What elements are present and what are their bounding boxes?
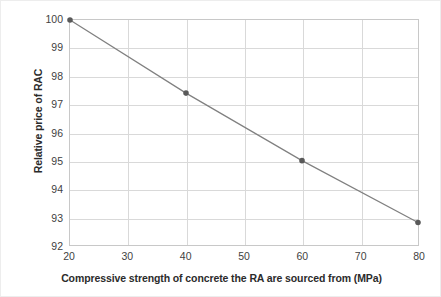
x-axis-title: Compressive strength of concrete the RA … <box>1 272 441 284</box>
y-axis-tick-label: 92 <box>3 241 63 252</box>
data-point-marker: 20, 100 <box>67 17 73 23</box>
data-point-marker: 80, 92.8 <box>415 220 421 226</box>
plot-area: 20, 10040, 97.460, 9580, 92.8 <box>69 19 419 246</box>
y-axis-tick-label: 99 <box>3 42 63 53</box>
x-axis-tick-label: 60 <box>282 251 322 262</box>
data-series-line: 20, 10040, 97.460, 9580, 92.8 <box>70 20 418 245</box>
y-axis-tick-label: 93 <box>3 213 63 224</box>
y-axis-tick-label: 100 <box>3 14 63 25</box>
chart-screenshot: Relative price of RAC 20, 10040, 97.460,… <box>0 0 441 297</box>
x-axis-tick-label: 50 <box>224 251 264 262</box>
y-axis-tick-label: 97 <box>3 99 63 110</box>
x-axis-tick-label: 20 <box>49 251 89 262</box>
y-axis-tick-label: 98 <box>3 71 63 82</box>
y-axis-tick-label: 96 <box>3 128 63 139</box>
x-axis-tick-label: 80 <box>399 251 439 262</box>
data-point-marker: 40, 97.4 <box>183 90 189 96</box>
x-axis-tick-label: 40 <box>166 251 206 262</box>
x-axis-tick-label: 30 <box>107 251 147 262</box>
y-axis-tick-label: 94 <box>3 184 63 195</box>
data-point-marker: 60, 95 <box>299 158 305 164</box>
y-axis-tick-label: 95 <box>3 156 63 167</box>
x-axis-tick-label: 70 <box>341 251 381 262</box>
series-line <box>70 20 418 223</box>
